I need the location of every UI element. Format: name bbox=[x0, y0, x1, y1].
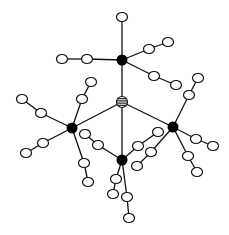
filled-hub-node bbox=[117, 155, 128, 166]
open-node bbox=[82, 55, 93, 64]
open-node bbox=[93, 141, 104, 150]
open-node bbox=[79, 159, 90, 168]
open-node bbox=[57, 55, 68, 64]
open-node bbox=[133, 142, 144, 151]
open-node bbox=[108, 190, 119, 199]
open-node bbox=[80, 130, 91, 139]
open-node bbox=[36, 109, 47, 118]
core-hub-bond bbox=[122, 102, 173, 127]
core-node bbox=[117, 97, 128, 108]
branched-molecule-diagram bbox=[0, 0, 229, 235]
filled-hub-node bbox=[67, 123, 78, 134]
open-node bbox=[144, 45, 155, 54]
open-node bbox=[153, 128, 164, 137]
open-node bbox=[86, 78, 97, 87]
open-node bbox=[146, 148, 157, 157]
open-node bbox=[21, 149, 32, 158]
open-node bbox=[111, 175, 122, 184]
open-node bbox=[171, 81, 182, 90]
open-node bbox=[149, 72, 160, 81]
bond-lines bbox=[22, 17, 213, 218]
open-node bbox=[38, 139, 49, 148]
open-node bbox=[192, 168, 203, 177]
open-node bbox=[183, 152, 194, 161]
arm-bond bbox=[122, 160, 127, 197]
open-node bbox=[117, 13, 128, 22]
open-node bbox=[132, 162, 143, 171]
open-node bbox=[163, 38, 174, 47]
open-node bbox=[122, 193, 133, 202]
open-node bbox=[77, 95, 88, 104]
open-node bbox=[193, 74, 204, 83]
terminal-nodes bbox=[17, 13, 219, 223]
filled-hub-node bbox=[117, 55, 128, 66]
open-node bbox=[184, 91, 195, 100]
filled-hub-node bbox=[168, 122, 179, 133]
open-node bbox=[83, 178, 94, 187]
open-node bbox=[208, 142, 219, 151]
open-node bbox=[17, 95, 28, 104]
open-node bbox=[191, 135, 202, 144]
open-node bbox=[124, 214, 135, 223]
